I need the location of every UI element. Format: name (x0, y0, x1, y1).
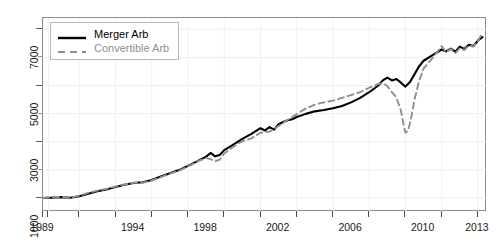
legend-swatch-dashed (57, 43, 87, 53)
legend-label: Merger Arb (94, 27, 148, 41)
x-axis: 1989199419982002200620102013 (42, 211, 486, 247)
x-tick (187, 211, 188, 217)
x-tick (368, 211, 369, 217)
x-tick-label: 1998 (193, 221, 216, 233)
x-tick (151, 211, 152, 217)
x-tick (477, 211, 478, 217)
y-tick-label: 3000 (28, 158, 40, 181)
series-line-1 (43, 37, 482, 198)
x-tick (441, 211, 442, 217)
y-axis: 1000300050007000 (0, 17, 42, 211)
x-tick (47, 211, 48, 217)
y-tick-label: 7000 (28, 46, 40, 69)
legend-item: Merger Arb (57, 27, 169, 41)
x-tick (332, 211, 333, 217)
x-tick (78, 211, 79, 217)
chart-container: 1000300050007000 19891994199820022006201… (0, 0, 498, 247)
x-tick-label: 1994 (121, 221, 144, 233)
x-tick (115, 211, 116, 217)
x-tick (260, 211, 261, 217)
legend-label: Convertible Arb (94, 41, 169, 55)
x-tick-label: 2006 (338, 221, 361, 233)
x-tick (296, 211, 297, 217)
x-tick-label: 2002 (266, 221, 289, 233)
x-tick (42, 211, 43, 217)
y-tick-label: 5000 (28, 102, 40, 125)
legend-item: Convertible Arb (57, 41, 169, 55)
x-tick (223, 211, 224, 217)
chart-legend: Merger ArbConvertible Arb (50, 22, 179, 60)
legend-swatch-solid (57, 29, 87, 39)
x-tick-label: 2010 (411, 221, 434, 233)
x-tick-label: 1989 (30, 221, 53, 233)
x-tick-label: 2013 (465, 221, 488, 233)
x-tick (404, 211, 405, 217)
